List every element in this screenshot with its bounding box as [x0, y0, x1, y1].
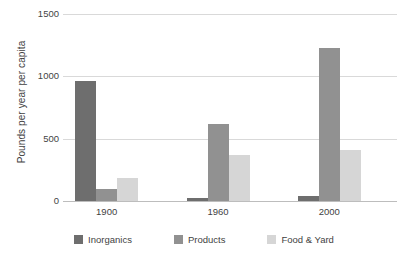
bars-layer	[63, 14, 397, 201]
legend-label-inorganics: Inorganics	[88, 234, 132, 245]
bar-products-1960	[208, 124, 229, 201]
bar-chart: Pounds per year per capita 050010001500 …	[0, 0, 408, 262]
bar-inorganics-1900	[75, 81, 96, 201]
legend-item-products[interactable]: Products	[174, 234, 226, 245]
legend-label-products: Products	[188, 234, 226, 245]
y-axis-tick-label: 500	[19, 134, 59, 144]
legend-label-food-yard: Food & Yard	[281, 234, 333, 245]
gridline	[63, 201, 397, 202]
y-axis-tick-label: 0	[19, 196, 59, 206]
y-axis-title: Pounds per year per capita	[14, 0, 30, 208]
bar-group-2000	[298, 14, 361, 201]
bar-products-1900	[96, 189, 117, 201]
legend-item-food-yard[interactable]: Food & Yard	[267, 234, 333, 245]
bar-group-1960	[187, 14, 250, 201]
bar-products-2000	[319, 48, 340, 201]
legend-swatch-inorganics	[74, 235, 83, 244]
legend-swatch-food-yard	[267, 235, 276, 244]
bar-inorganics-2000	[298, 196, 319, 201]
bar-inorganics-1960	[187, 198, 208, 201]
bar-food-yard-1960	[229, 155, 250, 201]
legend-swatch-products	[174, 235, 183, 244]
chart-legend: InorganicsProductsFood & Yard	[0, 230, 408, 248]
y-axis-tick-label: 1000	[19, 71, 59, 81]
x-axis-tick-label: 2000	[289, 206, 369, 218]
bar-food-yard-2000	[340, 150, 361, 201]
legend-item-inorganics[interactable]: Inorganics	[74, 234, 132, 245]
bar-food-yard-1900	[117, 178, 138, 201]
plot-area	[63, 14, 397, 201]
bar-group-1900	[75, 14, 138, 201]
y-axis-tick-label: 1500	[19, 9, 59, 19]
x-axis-tick-label: 1900	[67, 206, 147, 218]
x-axis-tick-label: 1960	[178, 206, 258, 218]
